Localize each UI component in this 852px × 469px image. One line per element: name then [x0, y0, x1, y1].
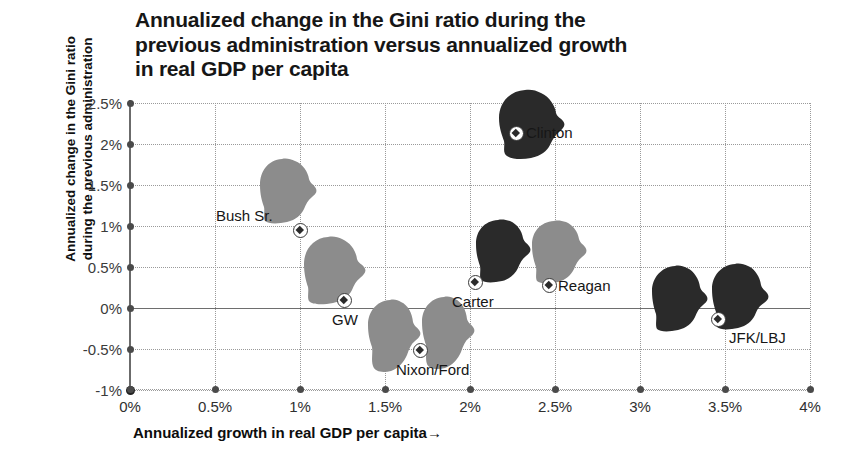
data-point-gw[interactable]	[337, 293, 352, 308]
data-point-bush-sr[interactable]	[293, 223, 308, 238]
gridline-x-2	[470, 103, 471, 390]
gridline-x-3.5	[725, 103, 726, 390]
data-point-jfk-lbj[interactable]	[711, 312, 726, 327]
x-tick-dot-2.5	[552, 386, 559, 393]
x-tick-dot-4	[807, 386, 814, 393]
gridline-x-1	[300, 103, 301, 390]
data-label-clinton: Clinton	[526, 125, 573, 141]
y-tick-label-neg1: -1%	[52, 382, 122, 399]
gridline-x-1.5	[385, 103, 386, 390]
gridline-x-2.5	[555, 103, 556, 390]
gridline-x-0.5	[215, 103, 216, 390]
x-tick-dot-3	[637, 386, 644, 393]
x-tick-label-1: 1%	[265, 398, 335, 415]
y-tick-label-0: 0%	[52, 300, 122, 317]
x-tick-dot-3.5	[722, 386, 729, 393]
data-point-nixon-ford[interactable]	[413, 343, 428, 358]
data-point-clinton[interactable]	[509, 126, 524, 141]
y-tick-dot-0	[127, 305, 134, 312]
chart-title: Annualized change in the Gini ratio duri…	[135, 8, 755, 82]
x-tick-label-2.5: 2.5%	[520, 398, 590, 415]
x-axis-title-text: Annualized growth in real GDP per capita	[133, 424, 427, 441]
x-axis-title: Annualized growth in real GDP per capita…	[133, 424, 442, 441]
y-tick-label-neg0.5: -0.5%	[52, 341, 122, 358]
data-label-gw: GW	[332, 312, 358, 328]
x-tick-dot-1	[297, 386, 304, 393]
y-tick-dot-0.5	[127, 264, 134, 271]
y-tick-label-2.5: 2.5%	[52, 95, 122, 112]
x-tick-dot-0.5	[212, 386, 219, 393]
data-point-carter[interactable]	[468, 275, 483, 290]
data-label-bush-sr: Bush Sr.	[216, 208, 273, 224]
x-tick-label-0.5: 0.5%	[180, 398, 250, 415]
x-tick-label-1.5: 1.5%	[350, 398, 420, 415]
scatter-chart: Annualized change in the Gini ratio duri…	[0, 0, 852, 469]
y-tick-dot-2	[127, 141, 134, 148]
chart-title-line-1: Annualized change in the Gini ratio duri…	[135, 8, 755, 33]
y-tick-label-2: 2%	[52, 136, 122, 153]
y-tick-dot-1.5	[127, 182, 134, 189]
y-tick-label-1.5: 1.5%	[52, 177, 122, 194]
y-tick-dot-1	[127, 223, 134, 230]
y-tick-dot-neg0.5	[127, 346, 134, 353]
x-tick-dot-2	[467, 386, 474, 393]
x-tick-label-4: 4%	[775, 398, 845, 415]
data-label-jfk-lbj: JFK/LBJ	[729, 330, 786, 346]
x-tick-label-0: 0%	[95, 398, 165, 415]
x-tick-dot-0	[127, 386, 134, 393]
plot-area	[130, 103, 810, 390]
gridline-x-4	[810, 103, 811, 390]
x-tick-label-3: 3%	[605, 398, 675, 415]
data-point-reagan[interactable]	[542, 278, 557, 293]
chart-title-line-2: previous administration versus annualize…	[135, 33, 755, 58]
gridline-x-3	[640, 103, 641, 390]
y-tick-label-1: 1%	[52, 218, 122, 235]
x-axis-arrow-icon: →	[427, 424, 442, 441]
data-label-carter: Carter	[452, 294, 494, 310]
data-label-nixon-ford: Nixon/Ford	[396, 362, 460, 378]
x-tick-dot-1.5	[382, 386, 389, 393]
x-tick-label-2: 2%	[435, 398, 505, 415]
y-tick-label-0.5: 0.5%	[52, 259, 122, 276]
data-label-reagan: Reagan	[558, 278, 611, 294]
y-tick-dot-2.5	[127, 100, 134, 107]
chart-title-line-3: in real GDP per capita	[135, 57, 755, 82]
x-tick-label-3.5: 3.5%	[690, 398, 760, 415]
